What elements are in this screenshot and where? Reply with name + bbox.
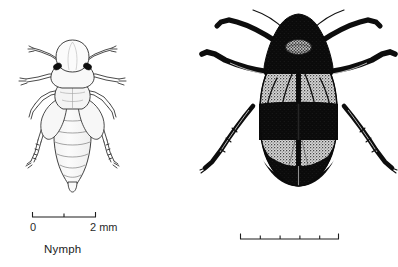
nymph-scale-max-label: 2 mm	[90, 221, 118, 233]
nymph-scale-zero-label: 0	[30, 221, 36, 233]
insect-figure: 0 2 mm Nymph	[0, 0, 398, 267]
panel-nymph: 0 2 mm Nymph	[0, 0, 199, 267]
adult-scale-bar	[199, 230, 398, 260]
panel-adult: 0 5 mm Adult	[199, 0, 398, 267]
nymph-abdomen-tip	[68, 182, 77, 192]
nymph-caption: Nymph	[44, 243, 81, 255]
nymph-illustration	[0, 0, 199, 215]
adult-illustration	[199, 0, 398, 205]
